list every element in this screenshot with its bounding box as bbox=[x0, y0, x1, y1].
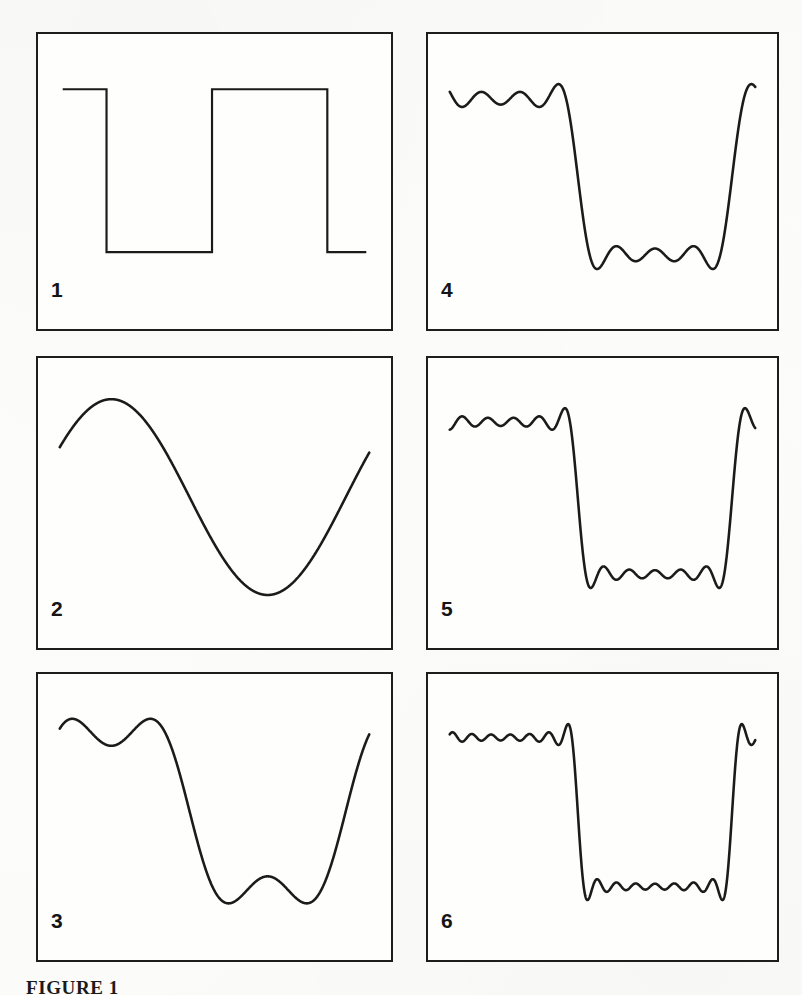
panel-3-label: 3 bbox=[51, 910, 63, 931]
panel-2-plot bbox=[36, 356, 393, 650]
figure-caption: FIGURE 1 bbox=[26, 977, 119, 995]
panel-1-waveform bbox=[38, 34, 391, 329]
panel-6-waveform bbox=[428, 674, 777, 960]
panel-6-plot bbox=[426, 672, 779, 962]
figure-page: 1 4 2 5 3 6 FIGURE 1 bbox=[0, 0, 802, 995]
fourier-3-harmonics-path bbox=[60, 719, 369, 904]
fourier-1-harmonic-path bbox=[60, 399, 369, 595]
fourier-11-harmonics-path bbox=[450, 408, 755, 588]
panel-2-waveform bbox=[38, 358, 391, 648]
panel-3-waveform bbox=[38, 674, 391, 960]
panel-1-label: 1 bbox=[51, 279, 63, 300]
panel-4-plot bbox=[426, 32, 779, 331]
panel-5-waveform bbox=[428, 358, 777, 648]
panel-5-plot bbox=[426, 356, 779, 650]
panel-1-plot bbox=[36, 32, 393, 331]
square-wave-path bbox=[63, 89, 367, 252]
panel-4-label: 4 bbox=[441, 279, 453, 300]
fourier-7-harmonics-path bbox=[450, 84, 755, 269]
panel-5-label: 5 bbox=[441, 598, 453, 619]
panel-3-plot bbox=[36, 672, 393, 962]
panel-6-label: 6 bbox=[441, 910, 453, 931]
panel-2-label: 2 bbox=[51, 598, 63, 619]
panel-4-waveform bbox=[428, 34, 777, 329]
fourier-15-harmonics-path bbox=[450, 724, 755, 900]
